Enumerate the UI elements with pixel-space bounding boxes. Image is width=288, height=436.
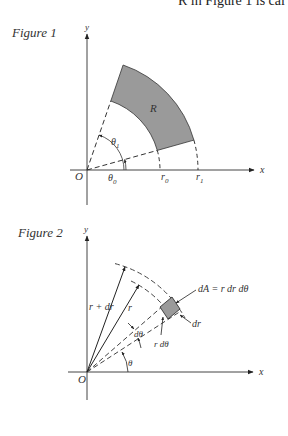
figures-canvas: y x O R θ0 θ1 r0 r1 y x O [0, 0, 288, 436]
x-axis-label: x [259, 164, 265, 175]
y-axis-label: y [84, 22, 89, 32]
ray-theta1 [87, 101, 111, 170]
origin-label: O [78, 373, 86, 385]
dtheta-arrow-lower [138, 338, 141, 348]
leader-dr [180, 315, 191, 323]
y-axis-label: y [83, 224, 88, 234]
r0-label: r0 [161, 171, 169, 185]
area-element-dA [160, 297, 180, 319]
arc-r0 [157, 150, 160, 170]
r-dtheta-label: r dθ [154, 339, 169, 349]
r-plus-dr-label: r + dr [89, 301, 114, 312]
angle-theta0 [125, 160, 126, 171]
arc-r1 [194, 140, 198, 170]
x-axis-label: x [258, 366, 264, 377]
dtheta-label: dθ [134, 329, 144, 339]
leader-dA [176, 290, 196, 303]
figure-2: y x O r + dr r dθ r dθ θ dA = r dr dθ dr [68, 224, 264, 400]
leader-r-dtheta [161, 317, 163, 335]
vector-r-plus-dr [87, 267, 125, 372]
theta1-label: θ1 [111, 136, 119, 150]
figure-1: y x O R θ0 θ1 r0 r1 [70, 22, 265, 205]
r1-label: r1 [196, 171, 203, 185]
dr-label: dr [192, 318, 201, 329]
origin-label: O [75, 170, 83, 182]
r-label: r [128, 302, 132, 313]
ray-theta0 [87, 150, 157, 170]
region-label: R [149, 102, 157, 114]
theta0-label: θ0 [108, 172, 117, 186]
dA-formula-label: dA = r dr dθ [198, 283, 248, 294]
theta-label: θ [128, 358, 133, 368]
